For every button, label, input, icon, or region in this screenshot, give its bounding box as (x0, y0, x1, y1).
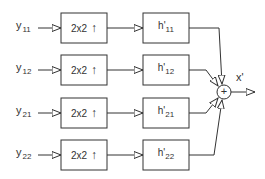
up-arrow-icon: ↑ (91, 64, 97, 76)
sum-line-3 (189, 98, 218, 113)
input-label-y11: y11 (16, 20, 31, 31)
sum-line-4 (189, 100, 222, 155)
upsampler-label-3: 2x2↑ (61, 107, 107, 119)
upsampler-label-1: 2x2↑ (61, 22, 107, 34)
input-label-y21: y21 (16, 105, 31, 116)
filter-label-h12: h'12 (143, 63, 189, 73)
input-label-y22: y22 (16, 147, 31, 158)
filter-label-h22: h'22 (143, 148, 189, 158)
up-arrow-icon: ↑ (91, 149, 97, 161)
up-arrow-icon: ↑ (91, 22, 97, 34)
plus-icon: + (218, 86, 230, 97)
filter-label-h11: h'11 (143, 21, 189, 31)
output-label: x' (236, 72, 244, 83)
up-arrow-icon: ↑ (91, 107, 97, 119)
filter-label-h21: h'21 (143, 106, 189, 116)
input-label-y12: y12 (16, 62, 31, 73)
sum-line-2 (189, 70, 218, 86)
upsampler-label-2: 2x2↑ (61, 64, 107, 76)
sum-line-1 (189, 28, 222, 84)
upsampler-label-4: 2x2↑ (61, 149, 107, 161)
